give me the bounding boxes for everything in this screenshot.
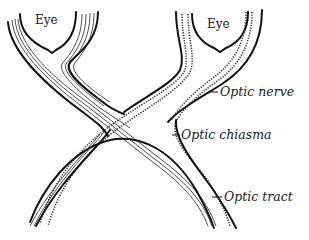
optic-tract-label: Optic tract [224,189,294,204]
eye-label-right: Eye [207,17,230,31]
optic-nerve-label: Optic nerve [220,84,294,99]
optic-chiasma-label: Optic chiasma [181,127,271,142]
left-optic-nerve [8,12,216,226]
optic-chiasma-diagram: Eye Eye Optic nerve Optic chiasma Optic … [0,0,309,240]
eye-label-left: Eye [35,13,58,27]
left-optic-tract [30,130,110,226]
